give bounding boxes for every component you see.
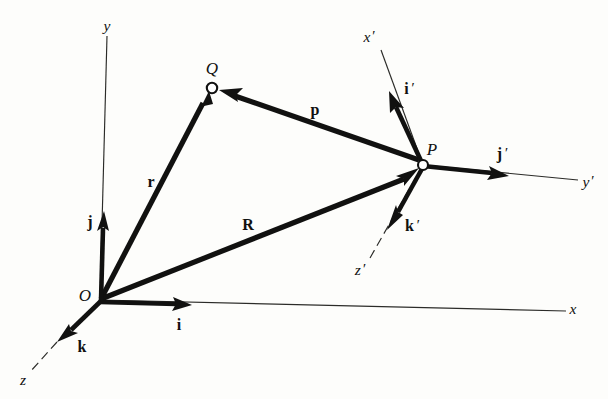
z-prime-axis-label: z′ [354, 261, 366, 278]
unit-vector-j-shaft [101, 228, 103, 301]
x-prime-axis-label-base: x [362, 28, 370, 45]
vector-r-arrowhead [198, 91, 213, 113]
z-axis-line [30, 342, 57, 372]
unit-vector-k-group [57, 301, 101, 342]
point-Q-label: Q [206, 59, 218, 78]
unprimed-axes-group [30, 36, 566, 372]
point-Q-marker [207, 83, 217, 93]
unit-vector-k-shaft [71, 301, 101, 330]
z-prime-axis-label-prime: ′ [362, 261, 366, 277]
y-prime-axis-label-prime: ′ [590, 173, 594, 189]
point-P-marker [418, 160, 428, 170]
x-prime-axis-label-prime: ′ [371, 28, 375, 44]
unit-vector-k-prime-label-base: k [405, 217, 414, 234]
vector-R-label: R [242, 216, 254, 233]
unit-vector-j-prime-label: j′ [496, 145, 508, 163]
point-P-label: P [426, 140, 437, 159]
z-axis-label: z [19, 371, 26, 388]
diagram-canvas: O Q P y x z x′ y′ z′ r R p i j k i′ j′ k… [0, 0, 608, 399]
unit-vector-i-group [100, 297, 192, 311]
unit-vector-j-prime-shaft [423, 166, 492, 173]
vector-R-shaft [101, 179, 404, 299]
point-O-label: O [79, 286, 91, 305]
unit-vector-i-prime-label: i′ [404, 80, 414, 97]
unit-vector-j-prime-label-prime: ′ [504, 145, 508, 161]
unit-vector-j-prime-group [423, 166, 509, 180]
vector-r-shaft [101, 103, 203, 299]
z-prime-axis-label-base: z [354, 261, 361, 278]
x-prime-axis-label: x′ [362, 28, 375, 45]
y-prime-axis-label-base: y [580, 173, 589, 190]
unit-vector-i-prime-label-prime: ′ [411, 80, 415, 96]
unit-vector-i-label: i [177, 316, 182, 333]
unit-vector-i-shaft [100, 302, 176, 304]
unit-vector-j-label: j [86, 213, 92, 231]
unit-vector-k-prime-label: k′ [405, 217, 420, 234]
x-axis-label: x [569, 300, 577, 317]
vector-diagram-figure: O Q P y x z x′ y′ z′ r R p i j k i′ j′ k… [0, 0, 608, 399]
vector-p-label: p [311, 101, 320, 119]
unit-vector-i-prime-label-base: i [404, 80, 409, 97]
unit-vector-j-prime-label-base: j [496, 145, 502, 163]
vector-r-label: r [147, 173, 154, 190]
y-prime-axis-label: y′ [580, 173, 594, 190]
y-axis-label: y [102, 17, 111, 34]
vector-r-group [101, 91, 213, 299]
vector-p-group [219, 88, 419, 160]
unit-vector-k-prime-label-prime: ′ [416, 217, 420, 233]
unit-vector-k-label: k [78, 338, 87, 355]
